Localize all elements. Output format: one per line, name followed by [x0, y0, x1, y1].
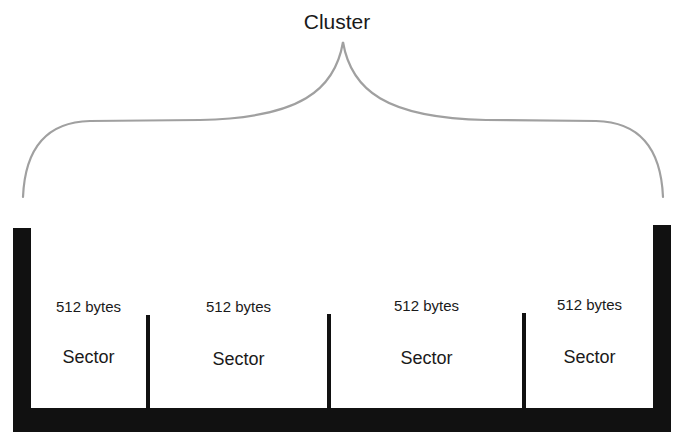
sector-label: Sector: [31, 347, 146, 368]
sector-label: Sector: [331, 348, 522, 369]
right-wall: [653, 225, 671, 418]
curly-brace-icon: [0, 0, 674, 444]
base-bar: [13, 408, 671, 432]
sector-label: Sector: [526, 347, 653, 368]
sector-size-label: 512 bytes: [331, 297, 522, 314]
sector-label: Sector: [150, 349, 327, 370]
sector-size-label: 512 bytes: [526, 296, 653, 313]
sector-size-label: 512 bytes: [150, 298, 327, 315]
cluster-diagram: Cluster 512 bytes Sector 512 bytes Secto…: [0, 0, 674, 444]
sector-size-label: 512 bytes: [31, 298, 146, 315]
left-wall: [13, 228, 31, 418]
